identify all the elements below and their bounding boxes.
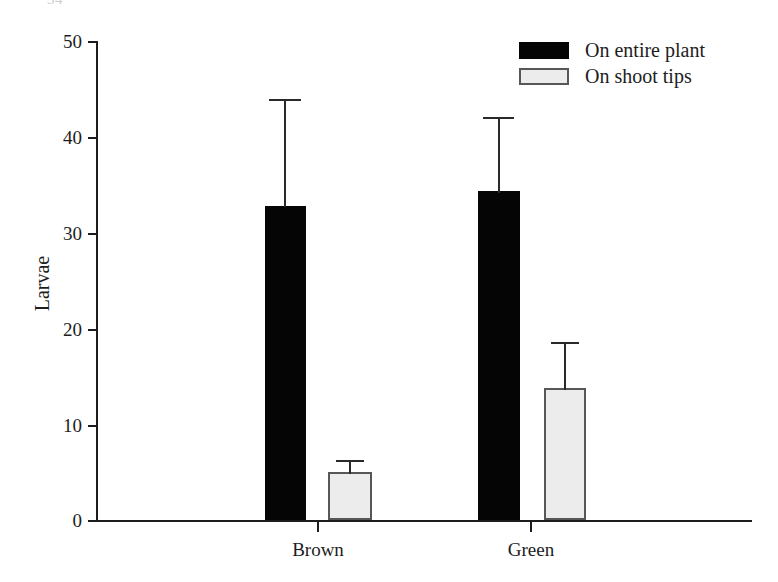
x-tick-label-green: Green (451, 538, 611, 562)
errorbar-stem-brown-on-entire-plant (284, 99, 286, 207)
errorbar-stem-brown-on-shoot-tips (349, 460, 351, 474)
y-tick-30 (88, 233, 97, 235)
y-tick-20 (88, 329, 97, 331)
legend-label-on-shoot-tips: On shoot tips (585, 65, 692, 87)
bar-green-on-entire-plant (478, 191, 520, 520)
errorbar-stem-green-on-shoot-tips (564, 342, 566, 390)
figure-root: 34 50 40 30 20 10 0 Larvae (0, 0, 778, 582)
legend-item-on-entire-plant: On entire plant (519, 38, 769, 62)
y-tick-label-10-wrap: 10 (22, 416, 82, 435)
y-tick-label-50: 50 (30, 32, 82, 51)
y-tick-label-50-wrap: 50 (22, 32, 82, 51)
errorbar-cap-green-on-entire-plant (483, 117, 514, 119)
x-tick-green (530, 522, 532, 532)
y-tick-label-40: 40 (30, 128, 82, 147)
legend-swatch-on-entire-plant (519, 42, 569, 59)
y-tick-0 (88, 520, 97, 522)
y-tick-label-10: 10 (30, 416, 82, 435)
y-tick-label-40-wrap: 40 (22, 128, 82, 147)
legend-item-on-shoot-tips: On shoot tips (519, 64, 769, 88)
y-tick-50 (88, 41, 97, 43)
y-tick-label-0-wrap: 0 (22, 511, 82, 530)
y-axis-line (96, 41, 98, 522)
y-tick-40 (88, 137, 97, 139)
plot-area: 50 40 30 20 10 0 Larvae (0, 0, 778, 582)
bar-brown-on-shoot-tips (328, 472, 372, 520)
x-tick-label-brown: Brown (238, 538, 398, 562)
x-tick-brown (317, 522, 319, 532)
errorbar-cap-brown-on-entire-plant (269, 99, 301, 101)
bar-green-on-shoot-tips (544, 388, 586, 520)
x-axis-line (96, 520, 752, 522)
errorbar-cap-green-on-shoot-tips (551, 342, 579, 344)
y-axis-title: Larvae (31, 224, 54, 344)
y-tick-10 (88, 425, 97, 427)
y-tick-label-0: 0 (30, 511, 82, 530)
errorbar-cap-brown-on-shoot-tips (336, 460, 364, 462)
legend-label-on-entire-plant: On entire plant (585, 39, 705, 61)
bar-brown-on-entire-plant (265, 206, 306, 520)
errorbar-stem-green-on-entire-plant (498, 117, 500, 193)
legend-swatch-on-shoot-tips (519, 68, 569, 85)
legend: On entire plant On shoot tips (519, 38, 769, 90)
